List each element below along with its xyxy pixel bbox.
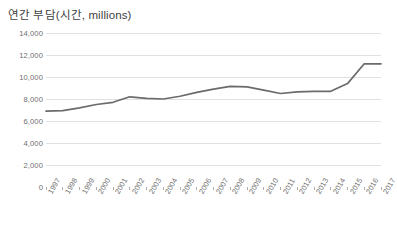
y-axis-tick-label: 8,000 <box>3 95 43 104</box>
data-series-line <box>46 33 381 187</box>
y-axis-tick-label: 6,000 <box>3 117 43 126</box>
y-axis-tick-label: 4,000 <box>3 139 43 148</box>
y-axis-tick-label: 14,000 <box>3 29 43 38</box>
x-axis-tick-labels: 1997199819992000200120022003200420052006… <box>46 189 381 227</box>
y-axis-tick-label: 0 <box>3 183 43 192</box>
series-polyline <box>46 64 381 111</box>
x-axis-tick-label: 2017 <box>381 176 397 195</box>
y-axis-tick-label: 2,000 <box>3 161 43 170</box>
y-axis-tick-labels: 14,00012,00010,0008,0006,0004,0002,0000 <box>0 33 43 187</box>
chart-title: 연간 부담(시간, millions) <box>8 6 132 22</box>
plot-area <box>46 33 381 187</box>
y-axis-tick-label: 12,000 <box>3 51 43 60</box>
y-axis-tick-label: 10,000 <box>3 73 43 82</box>
